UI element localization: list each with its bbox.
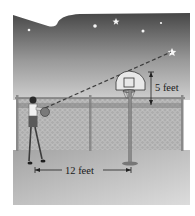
star-icon	[160, 22, 162, 24]
horizontal-measure-label: 12 feet	[65, 165, 94, 176]
person-left-shoe	[28, 161, 33, 164]
ground	[13, 150, 190, 205]
hoop-pole	[129, 90, 132, 163]
star-icon	[142, 30, 145, 33]
star-icon	[93, 24, 97, 28]
basketball	[41, 108, 50, 117]
person-head	[30, 97, 37, 104]
star-icon	[28, 29, 31, 32]
person-shorts	[29, 116, 38, 127]
person-right-shoe	[41, 159, 46, 162]
fence-shadow-band	[17, 103, 182, 108]
vertical-measure-label: 5 feet	[155, 82, 179, 93]
hoop-base	[122, 162, 138, 166]
basketball-figure: 5 feet 12 feet	[0, 0, 195, 216]
